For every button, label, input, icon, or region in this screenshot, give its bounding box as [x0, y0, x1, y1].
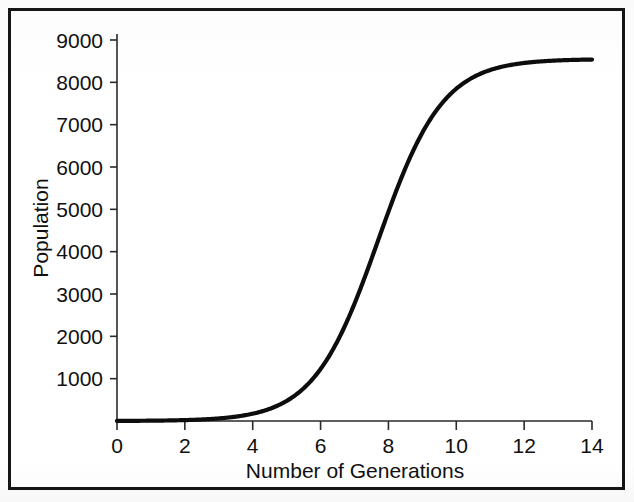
y-tick-label: 1000 [56, 367, 103, 390]
y-tick-label: 9000 [56, 29, 103, 52]
y-tick-label: 4000 [56, 240, 103, 263]
x-tick-label: 12 [512, 434, 535, 457]
y-tick-label: 8000 [56, 71, 103, 94]
y-tick-label: 6000 [56, 156, 103, 179]
y-tick-label: 2000 [56, 325, 103, 348]
y-tick-label: 3000 [56, 283, 103, 306]
x-axis-title: Number of Generations [246, 459, 464, 482]
x-tick-label: 0 [111, 434, 123, 457]
y-axis-title: Population [29, 178, 52, 277]
x-tick-label: 10 [445, 434, 468, 457]
x-tick-label: 14 [580, 434, 604, 457]
x-tick-label: 2 [179, 434, 191, 457]
y-tick-label: 7000 [56, 113, 103, 136]
y-axis-ticks [110, 40, 117, 379]
chart-plot: 100020003000400050006000700080009000 024… [0, 0, 634, 502]
x-tick-label: 8 [383, 434, 395, 457]
y-axis-tick-labels: 100020003000400050006000700080009000 [56, 29, 103, 391]
x-axis-tick-labels: 02468101214 [111, 434, 604, 457]
x-tick-label: 6 [315, 434, 327, 457]
figure-container: 100020003000400050006000700080009000 024… [0, 0, 634, 502]
x-axis-ticks [117, 421, 592, 430]
y-tick-label: 5000 [56, 198, 103, 221]
population-growth-curve [117, 60, 592, 421]
x-tick-label: 4 [247, 434, 259, 457]
